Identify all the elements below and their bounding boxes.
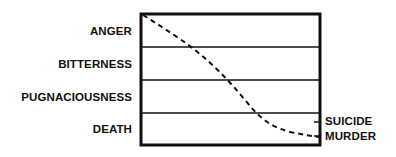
label-death: DEATH bbox=[93, 123, 132, 135]
label-anger: ANGER bbox=[90, 25, 132, 37]
label-suicide: SUICIDE bbox=[325, 115, 372, 127]
label-bitterness: BITTERNESS bbox=[58, 58, 132, 70]
label-pugnaciousness: PUGNACIOUSNESS bbox=[21, 91, 132, 103]
dashed-curve bbox=[143, 15, 319, 137]
label-murder: MURDER bbox=[325, 130, 376, 142]
